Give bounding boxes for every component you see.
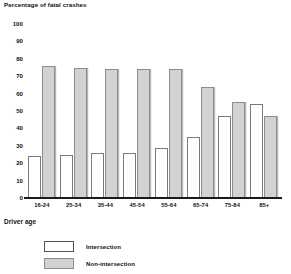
bar-group bbox=[90, 24, 122, 198]
bar-group bbox=[217, 24, 249, 198]
bar-intersection bbox=[155, 148, 168, 198]
y-axis-tick-label: 70 bbox=[1, 73, 23, 79]
bar-non-intersection bbox=[105, 69, 118, 198]
bar-group bbox=[121, 24, 153, 198]
legend-label: Non-intersection bbox=[86, 261, 135, 267]
x-axis-tick-label: 65-74 bbox=[185, 202, 217, 214]
bar-intersection bbox=[218, 116, 231, 198]
x-axis-tick-label: 35-44 bbox=[90, 202, 122, 214]
bar-group bbox=[153, 24, 185, 198]
y-axis-tick-label: 90 bbox=[1, 38, 23, 44]
y-axis-tick-label: 30 bbox=[1, 143, 23, 149]
bar-intersection bbox=[187, 137, 200, 198]
legend-item: Non-intersection bbox=[44, 257, 135, 270]
bar-group bbox=[185, 24, 217, 198]
y-axis-tick-label: 10 bbox=[1, 178, 23, 184]
bar-non-intersection bbox=[74, 68, 87, 199]
bar-group bbox=[58, 24, 90, 198]
bar-group bbox=[26, 24, 58, 198]
y-axis-tick-label: 20 bbox=[1, 160, 23, 166]
x-axis-line bbox=[24, 197, 282, 199]
bar-non-intersection bbox=[264, 116, 277, 198]
bar-non-intersection bbox=[42, 66, 55, 198]
legend-item: Intersection bbox=[44, 240, 135, 253]
x-axis-tick-label: 85+ bbox=[248, 202, 280, 214]
bar-intersection bbox=[250, 104, 263, 198]
x-axis-tick-label: 75-84 bbox=[217, 202, 249, 214]
bar-non-intersection bbox=[232, 102, 245, 198]
y-axis-tick-label: 80 bbox=[1, 56, 23, 62]
chart-legend: IntersectionNon-intersection bbox=[44, 240, 135, 274]
legend-swatch bbox=[44, 241, 74, 252]
plot-area bbox=[26, 24, 280, 198]
bar-intersection bbox=[28, 156, 41, 198]
bar-intersection bbox=[91, 153, 104, 198]
bar-group bbox=[248, 24, 280, 198]
bar-non-intersection bbox=[137, 69, 150, 198]
y-axis-tick-label: 100 bbox=[1, 21, 23, 27]
y-axis-title: Percentage of fatal crashes bbox=[4, 1, 87, 8]
y-axis-tick-label: 0 bbox=[1, 195, 23, 201]
bar-intersection bbox=[60, 155, 73, 199]
bar-intersection bbox=[123, 153, 136, 198]
y-axis-tick-labels: 1009080706050403020100 bbox=[0, 24, 23, 198]
x-axis-tick-label: 16-24 bbox=[26, 202, 58, 214]
x-axis-tick-labels: 16-2425-3435-4445-5455-6465-7475-8485+ bbox=[26, 202, 280, 214]
y-axis-tick-label: 60 bbox=[1, 91, 23, 97]
fatal-crashes-bar-chart: Percentage of fatal crashes 100908070605… bbox=[0, 0, 291, 274]
legend-swatch bbox=[44, 258, 74, 269]
bar-non-intersection bbox=[169, 69, 182, 198]
y-axis-tick-label: 50 bbox=[1, 108, 23, 114]
x-axis-tick-label: 25-34 bbox=[58, 202, 90, 214]
x-axis-tick-label: 55-64 bbox=[153, 202, 185, 214]
x-axis-tick-label: 45-54 bbox=[121, 202, 153, 214]
y-axis-tick-label: 40 bbox=[1, 125, 23, 131]
x-axis-title: Driver age bbox=[4, 218, 36, 225]
bar-non-intersection bbox=[201, 87, 214, 198]
legend-label: Intersection bbox=[86, 244, 121, 250]
